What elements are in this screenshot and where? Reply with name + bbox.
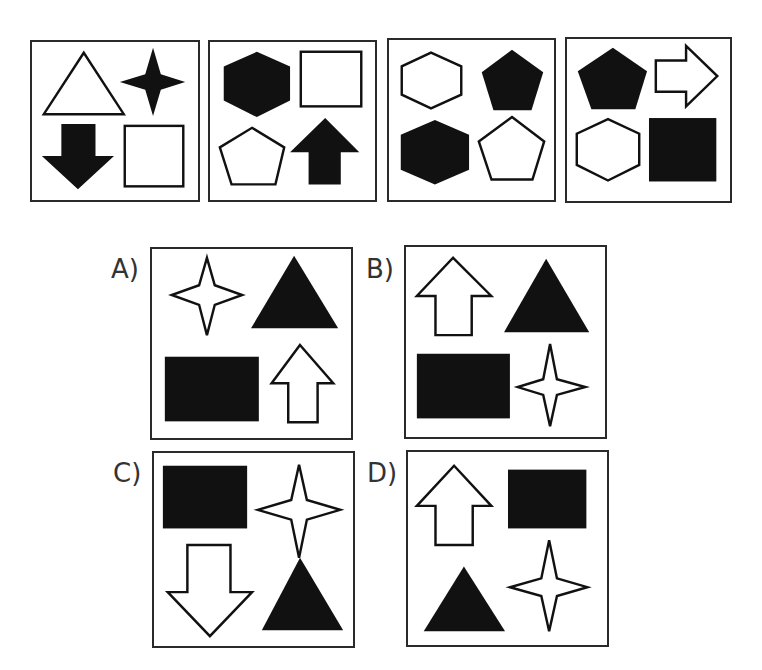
pentagon-icon: [220, 128, 284, 185]
pentagon-icon: [479, 117, 544, 179]
triangle-icon: [251, 256, 338, 328]
hexagon-icon: [577, 119, 639, 180]
hexagon-icon: [402, 53, 462, 109]
sequence-panel-4: [565, 37, 732, 203]
panel-1-shapes: [32, 42, 198, 200]
square-icon: [125, 126, 184, 186]
rectangle-icon: [508, 470, 586, 529]
panel-3-shapes: [389, 40, 554, 200]
option-d-panel[interactable]: [406, 450, 609, 647]
pentagon-icon: [482, 50, 543, 110]
panel-4-shapes: [567, 39, 730, 201]
hexagon-icon: [401, 120, 469, 184]
arrow-right-icon: [656, 46, 717, 107]
option-b-label: B): [366, 256, 394, 282]
triangle-icon: [504, 259, 589, 332]
arrow-up-icon: [417, 466, 491, 545]
triangle-icon: [44, 53, 124, 114]
arrow-up-icon: [417, 258, 491, 335]
option-d-shapes: [408, 452, 607, 645]
arrow-up-icon: [290, 118, 359, 184]
four-point-star-icon: [172, 258, 243, 335]
four-point-star-icon: [518, 344, 586, 426]
pentagon-icon: [578, 48, 647, 109]
option-a-label: A): [111, 256, 139, 282]
four-point-star-icon: [120, 48, 185, 116]
rectangle-icon: [165, 357, 259, 422]
sequence-panel-3: [387, 38, 556, 202]
option-c-label: C): [113, 460, 141, 486]
option-a-shapes: [152, 249, 351, 438]
arrow-down-icon: [42, 124, 114, 189]
option-a-panel[interactable]: [150, 247, 353, 440]
option-c-panel[interactable]: [152, 451, 355, 648]
arrow-down-icon: [168, 545, 252, 636]
sequence-panel-2: [208, 40, 377, 202]
option-c-shapes: [154, 453, 353, 646]
sequence-panel-1: [30, 40, 200, 202]
option-d-label: D): [367, 460, 397, 486]
panel-2-shapes: [210, 42, 375, 200]
four-point-star-icon: [510, 540, 587, 631]
triangle-icon: [262, 558, 343, 630]
square-icon: [649, 118, 716, 181]
four-point-star-icon: [258, 465, 340, 558]
rectangle-icon: [163, 466, 247, 529]
rectangle-icon: [417, 354, 510, 419]
hexagon-icon: [224, 52, 290, 117]
triangle-icon: [424, 567, 505, 632]
option-b-shapes: [406, 247, 605, 437]
rectangle-icon: [301, 52, 361, 107]
option-b-panel[interactable]: [404, 245, 607, 439]
arrow-up-icon: [272, 345, 334, 422]
